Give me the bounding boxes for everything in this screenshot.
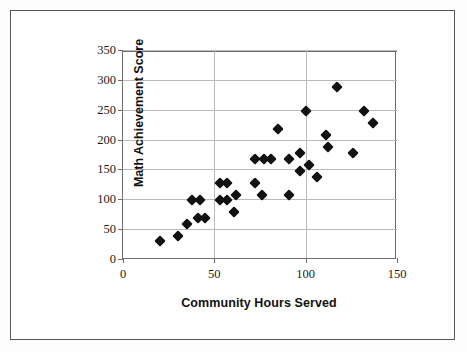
plot-right-edge (395, 50, 397, 259)
y-tick-label-200: 200 (97, 132, 116, 147)
plot-area: 050100150200250300350 050100150 (122, 50, 396, 259)
y-tick-label-100: 100 (97, 192, 116, 207)
data-point (331, 81, 342, 92)
y-tick-label-50: 50 (104, 222, 117, 237)
data-point (229, 207, 240, 218)
y-tick-200 (118, 140, 123, 141)
x-tick-label-100: 100 (296, 267, 315, 282)
data-point (172, 230, 183, 241)
y-tick-150 (118, 169, 123, 170)
data-point (154, 235, 165, 246)
y-tick-50 (118, 229, 123, 230)
y-axis-title-holder: Math Achievement Score (70, 50, 71, 259)
gridline-y-350 (123, 50, 397, 51)
x-tick-label-0: 0 (120, 267, 126, 282)
y-tick-label-300: 300 (97, 72, 116, 87)
gridline-y-300 (123, 80, 397, 81)
data-point (322, 141, 333, 152)
y-tick-100 (118, 199, 123, 200)
data-point (181, 218, 192, 229)
data-point (311, 172, 322, 183)
x-tick-150 (397, 258, 398, 263)
x-tick-50 (214, 258, 215, 263)
data-point (194, 194, 205, 205)
data-point (273, 123, 284, 134)
y-tick-350 (118, 50, 123, 51)
x-tick-100 (306, 258, 307, 263)
data-point (300, 105, 311, 116)
data-point (200, 212, 211, 223)
data-point (295, 147, 306, 158)
data-point (368, 117, 379, 128)
x-tick-label-150: 150 (388, 267, 407, 282)
data-point (265, 153, 276, 164)
y-tick-label-350: 350 (97, 43, 116, 58)
gridline-x-50 (214, 50, 215, 259)
gridline-y-200 (123, 140, 397, 141)
gridline-y-150 (123, 169, 397, 170)
x-axis-title: Community Hours Served (122, 296, 396, 310)
y-tick-250 (118, 110, 123, 111)
plot-wrapper: 050100150200250300350 050100150 Math Ach… (0, 0, 467, 352)
data-point (249, 177, 260, 188)
x-tick-0 (123, 258, 124, 263)
y-tick-label-250: 250 (97, 102, 116, 117)
data-point (358, 105, 369, 116)
data-point (347, 148, 358, 159)
gridline-y-250 (123, 110, 397, 111)
y-tick-300 (118, 80, 123, 81)
gridline-y-50 (123, 229, 397, 230)
y-axis-title: Math Achievement Score (132, 9, 146, 218)
y-tick-label-150: 150 (97, 162, 116, 177)
gridline-x-100 (306, 50, 307, 259)
x-tick-label-50: 50 (208, 267, 221, 282)
scatterplot-figure: 050100150200250300350 050100150 Math Ach… (0, 0, 467, 352)
y-tick-label-0: 0 (110, 252, 116, 267)
data-point (284, 153, 295, 164)
data-point (221, 177, 232, 188)
